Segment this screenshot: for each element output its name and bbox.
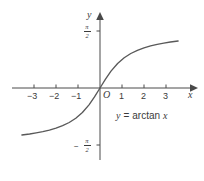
pi-numerator: π bbox=[79, 24, 95, 31]
equation-x-symbol: x bbox=[163, 110, 167, 121]
equation-function-name: arctan bbox=[132, 110, 160, 121]
two-denominator: 2 bbox=[79, 147, 95, 154]
x-tick-label-neg1: −1 bbox=[71, 92, 81, 101]
minus-sign: − bbox=[74, 143, 79, 151]
y-tick-label-neg-pi-over-2: − π 2 bbox=[79, 138, 95, 153]
x-axis-label: x bbox=[188, 90, 192, 100]
two-denominator: 2 bbox=[79, 33, 95, 40]
origin-label: O bbox=[103, 90, 110, 100]
pi-numerator: π bbox=[79, 138, 95, 145]
x-tick-label-pos2: 2 bbox=[141, 92, 146, 101]
x-tick-label-pos3: 3 bbox=[163, 92, 168, 101]
y-axis-label: y bbox=[87, 10, 91, 20]
equation-y-symbol: y bbox=[116, 110, 120, 121]
arctan-graph-figure: y x O −3 −2 −1 1 2 3 π 2 − π 2 y=arctanx bbox=[0, 0, 204, 181]
y-axis-arrowhead bbox=[96, 12, 104, 20]
x-tick-label-neg3: −3 bbox=[27, 92, 37, 101]
x-tick-label-neg2: −2 bbox=[49, 92, 59, 101]
equation-equals-sign: = bbox=[123, 110, 129, 121]
x-tick-label-pos1: 1 bbox=[119, 92, 124, 101]
y-tick-label-pi-over-2: π 2 bbox=[79, 24, 95, 39]
function-equation-label: y=arctanx bbox=[116, 110, 168, 121]
